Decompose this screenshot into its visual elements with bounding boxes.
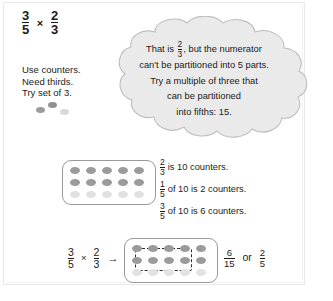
statement-text: of 10 is 2 counters. [168,178,247,200]
statement-row: 15of 10 is 2 counters. [160,178,246,200]
denominator: 3 [160,167,165,177]
counter [86,167,96,174]
loose-counters-group [36,100,82,120]
counter [148,269,158,276]
multiplication-operator: × [37,17,43,29]
counter [118,179,128,186]
denominator: 5 [68,258,74,270]
bottom-equation: 3 5 × 2 3 → [68,247,120,269]
thought-bubble-text: That is 2 3 , but the numerator can't be… [93,40,315,120]
counter [132,269,142,276]
statement-text: of 10 is 6 counters. [168,200,247,222]
multiplication-operator: × [81,252,87,263]
bubble-line-1-pre: That is [146,44,174,54]
counter [196,245,206,252]
instruction-line-2: Need thirds. [22,76,81,88]
numerator: 2 [178,40,183,49]
counter [180,257,190,264]
statement-text: is 10 counters. [168,156,228,178]
counter [164,269,174,276]
counter [180,245,190,252]
counter [148,245,158,252]
counter [148,257,158,264]
statement-list: 23is 10 counters.15of 10 is 2 counters.3… [160,156,246,222]
denominator: 5 [22,22,29,36]
counter-board-bottom [124,238,218,283]
statement-fraction: 23 [160,158,165,177]
numerator: 2 [260,248,265,258]
denominator: 5 [160,189,165,199]
denominator: 5 [160,211,165,221]
or-label: or [243,251,252,263]
statement-fraction: 15 [160,180,165,199]
numerator: 3 [22,9,29,22]
numerator: 6 [224,248,235,258]
counter [196,269,206,276]
counter [134,191,144,198]
counter [102,167,112,174]
instruction-line-1: Use counters. [22,64,81,76]
loose-counter [48,102,57,108]
statement-fraction: 35 [160,202,165,221]
counter [102,191,112,198]
bubble-line-1-post: , but the numerator [183,44,262,54]
numerator: 3 [160,202,165,211]
statement-row: 23is 10 counters. [160,156,246,178]
title-left-fraction: 3 5 [22,9,29,37]
title-right-fraction: 2 3 [51,9,58,37]
bottom-left-fraction: 3 5 [68,247,74,269]
denominator: 15 [224,258,235,269]
counter [196,257,206,264]
counter [70,191,80,198]
numerator: 2 [51,9,58,22]
counter [70,167,80,174]
counter [86,191,96,198]
counter [118,191,128,198]
thought-bubble: That is 2 3 , but the numerator can't be… [93,16,315,140]
counter [164,257,174,264]
counter [134,179,144,186]
counter [180,269,190,276]
numerator: 2 [94,247,100,258]
counter [132,245,142,252]
denominator: 3 [51,22,58,36]
counter [132,257,142,264]
instruction-text: Use counters. Need thirds. Try set of 3. [22,64,81,99]
simplified-fraction: 2 5 [260,248,265,268]
loose-counter [36,107,45,113]
counter [164,245,174,252]
bubble-line-3: Try a multiple of three that [93,74,315,90]
worksheet-page: 3 5 × 2 3 Use counters. Need thirds. Try… [0,0,333,301]
denominator: 5 [260,258,265,269]
bubble-line-2: can't be partitioned into 5 parts. [93,58,315,74]
title-equation: 3 5 × 2 3 [22,9,58,37]
bubble-fraction: 2 3 [178,40,183,58]
bubble-line-1: That is 2 3 , but the numerator [93,40,315,58]
counter [70,179,80,186]
bubble-line-4: can be partitioned [93,89,315,105]
counter-board-middle [62,160,156,205]
denominator: 3 [178,49,183,59]
counter [102,179,112,186]
numerator: 3 [68,247,74,258]
arrow-icon: → [107,252,118,264]
numerator: 2 [160,158,165,167]
bottom-right-fraction: 2 3 [94,247,100,269]
denominator: 3 [94,258,100,270]
counter [134,167,144,174]
statement-row: 35of 10 is 6 counters. [160,200,246,222]
loose-counter [60,109,69,115]
result-fraction: 6 15 [224,248,235,268]
numerator: 1 [160,180,165,189]
counter [86,179,96,186]
result-expression: 6 15 or 2 5 [224,248,265,268]
bubble-line-5: into fifths: 15. [93,105,315,121]
counter [118,167,128,174]
instruction-line-3: Try set of 3. [22,87,81,99]
